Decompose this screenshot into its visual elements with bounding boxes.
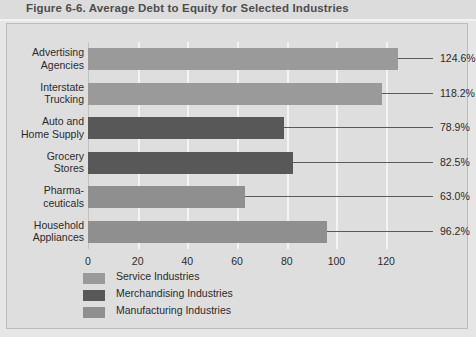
bar-4 <box>88 186 245 208</box>
category-label-line: Pharma- <box>10 184 84 197</box>
category-label-5: HouseholdAppliances <box>10 219 84 244</box>
figure-title: Figure 6-6. Average Debt to Equity for S… <box>26 2 349 14</box>
category-label-0: AdvertisingAgencies <box>10 46 84 71</box>
legend-swatch-2 <box>83 307 105 318</box>
bar-2 <box>88 117 284 139</box>
value-label-3: 82.5% <box>440 156 470 168</box>
legend-label-1: Merchandising Industries <box>116 287 233 299</box>
leader-line-4 <box>245 196 433 197</box>
category-label-line: Auto and <box>10 115 84 128</box>
leader-line-5 <box>327 231 433 232</box>
leader-line-3 <box>293 162 433 163</box>
x-tick-label-100: 100 <box>321 255 351 267</box>
x-tick-label-20: 20 <box>123 255 153 267</box>
legend-swatch-1 <box>83 290 105 301</box>
value-label-1: 118.2% <box>440 87 475 99</box>
legend-label-2: Manufacturing Industries <box>116 304 231 316</box>
x-tick-label-80: 80 <box>272 255 302 267</box>
category-label-2: Auto andHome Supply <box>10 115 84 140</box>
leader-line-2 <box>284 127 433 128</box>
value-label-2: 78.9% <box>440 121 470 133</box>
category-label-3: GroceryStores <box>10 150 84 175</box>
category-label-line: Grocery <box>10 150 84 163</box>
title-divider <box>0 19 476 21</box>
category-label-1: InterstateTrucking <box>10 81 84 106</box>
category-label-line: Agencies <box>10 59 84 72</box>
category-label-line: Interstate <box>10 81 84 94</box>
category-label-line: Advertising <box>10 46 84 59</box>
x-tick-label-0: 0 <box>73 255 103 267</box>
value-label-4: 63.0% <box>440 190 470 202</box>
plot-area <box>88 42 411 249</box>
category-label-line: Household <box>10 219 84 232</box>
figure-container: Figure 6-6. Average Debt to Equity for S… <box>0 0 476 337</box>
bar-5 <box>88 221 327 243</box>
x-tick-label-120: 120 <box>371 255 401 267</box>
x-tick-label-40: 40 <box>172 255 202 267</box>
category-label-4: Pharma-ceuticals <box>10 184 84 209</box>
bar-3 <box>88 152 293 174</box>
category-label-line: Home Supply <box>10 128 84 141</box>
legend-label-0: Service Industries <box>116 270 199 282</box>
figure-title-bar: Figure 6-6. Average Debt to Equity for S… <box>0 0 476 19</box>
category-label-line: Appliances <box>10 231 84 244</box>
value-label-0: 124.6% <box>440 52 476 64</box>
category-label-line: Stores <box>10 162 84 175</box>
bar-1 <box>88 83 382 105</box>
leader-line-1 <box>382 93 433 94</box>
legend-swatch-0 <box>83 273 105 284</box>
category-label-line: ceuticals <box>10 197 84 210</box>
category-label-line: Trucking <box>10 93 84 106</box>
bar-0 <box>88 48 398 70</box>
x-tick-label-60: 60 <box>222 255 252 267</box>
leader-line-0 <box>398 58 433 59</box>
chart-panel: AdvertisingAgenciesInterstateTruckingAut… <box>6 23 468 329</box>
value-label-5: 96.2% <box>440 225 470 237</box>
